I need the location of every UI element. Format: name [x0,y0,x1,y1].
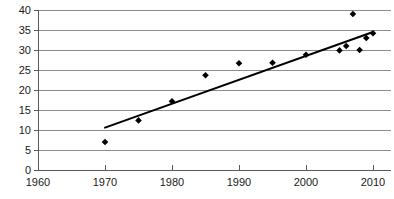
y-tick-label: 25 [19,64,31,76]
scatter-plot: 0510152025303540 19601970198019902000201… [0,0,394,199]
y-tick-label: 0 [25,164,31,176]
x-tick-label: 1980 [160,176,184,188]
y-tick-label: 35 [19,24,31,36]
chart-background [0,0,394,199]
y-tick-label: 15 [19,104,31,116]
x-tick-label: 2010 [361,176,385,188]
y-tick-label: 5 [25,144,31,156]
y-tick-label: 30 [19,44,31,56]
x-tick-label: 2000 [294,176,318,188]
chart-container: 0510152025303540 19601970198019902000201… [0,0,394,199]
y-tick-label: 20 [19,84,31,96]
x-tick-label: 1960 [26,176,50,188]
x-tick-label: 1990 [227,176,251,188]
x-tick-label: 1970 [93,176,117,188]
y-tick-label: 10 [19,124,31,136]
y-tick-label: 40 [19,4,31,16]
